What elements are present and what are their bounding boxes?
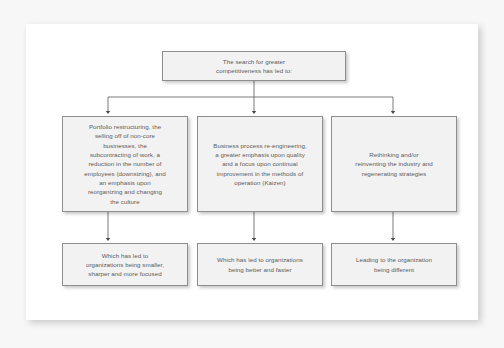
node-outcome-better-faster: Which has led to organizations being bet… [197, 243, 323, 286]
node-text-line: Rethinking and/or [355, 150, 432, 159]
node-text-line: Business process re-engineering, [213, 141, 306, 150]
node-text-line: employees (downsizing), and [84, 169, 166, 178]
node-text-line: being different [356, 265, 432, 274]
node-text-line: organizations being smaller, [86, 260, 164, 269]
node-text-line: Leading to the organization [356, 255, 432, 264]
node-text-line: reduction in the number of [84, 159, 166, 168]
node-text-line: competitiveness has led to: [216, 66, 292, 75]
node-middle-restructuring: Portfolio restructuring, the selling off… [62, 116, 188, 212]
node-text-line: and a focus upon continual [213, 159, 306, 168]
node-text-line: The search for greater [216, 57, 292, 66]
node-text-line: businesses, the [84, 141, 166, 150]
node-middle-rethinking: Rethinking and/or reinventing the indust… [331, 116, 457, 212]
node-outcome-different: Leading to the organization being differ… [331, 243, 457, 286]
node-text-line: a greater emphasis upon quality [213, 150, 306, 159]
node-text-line: the culture [84, 197, 166, 206]
node-text-line: subcontracting of work, a [84, 150, 166, 159]
node-text-line: selling off of non-core [84, 131, 166, 140]
node-text-line: Which has led to organizations [217, 255, 303, 264]
diagram-page: The search for greater competitiveness h… [0, 0, 504, 348]
node-outcome-smaller-sharper: Which has led to organizations being sma… [62, 243, 188, 286]
node-text-line: operation (Kaizen) [213, 178, 306, 187]
node-middle-reengineering: Business process re-engineering, a great… [197, 116, 323, 212]
node-text-line: reinventing the industry and [355, 159, 432, 168]
node-text-line: Portfolio restructuring, the [84, 122, 166, 131]
node-text-line: an emphasis upon [84, 178, 166, 187]
node-text-line: reorganizing and changing [84, 187, 166, 196]
node-text-line: being better and faster [217, 265, 303, 274]
node-text-line: improvement in the methods of [213, 169, 306, 178]
node-text-line: Which has led to [86, 251, 164, 260]
node-top-driver: The search for greater competitiveness h… [162, 51, 346, 81]
node-text-line: sharper and more focused [86, 269, 164, 278]
node-text-line: regenerating strategies [355, 169, 432, 178]
flowchart-canvas: The search for greater competitiveness h… [0, 0, 504, 348]
